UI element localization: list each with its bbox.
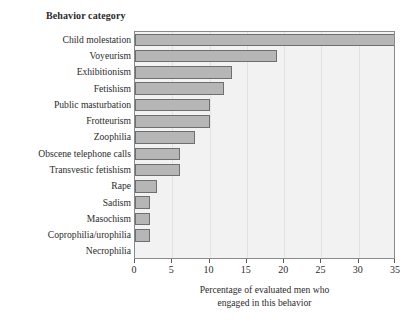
bar	[135, 229, 150, 242]
x-tick-mark	[209, 259, 210, 263]
bar-row	[135, 211, 394, 227]
x-tick-label: 5	[169, 264, 174, 276]
bar	[135, 148, 180, 161]
plot-area	[134, 31, 395, 259]
bar-row	[135, 65, 394, 81]
category-label: Zoophilia	[0, 131, 131, 142]
x-tick-label: 20	[278, 264, 288, 276]
x-tick-mark	[358, 259, 359, 263]
x-tick-label: 25	[315, 264, 325, 276]
category-label: Masochism	[0, 213, 131, 224]
bar-row	[135, 97, 394, 113]
bar	[135, 99, 210, 112]
x-tick-mark	[320, 259, 321, 263]
category-label: Frotteurism	[0, 115, 131, 126]
bar	[135, 50, 277, 63]
bar	[135, 131, 195, 144]
bar	[135, 213, 150, 226]
category-label: Exhibitionism	[0, 66, 131, 77]
bar	[135, 164, 180, 177]
bar	[135, 66, 232, 79]
category-label: Necrophilia	[0, 245, 131, 256]
category-axis-labels: Child molestationVoyeurismExhibitionismF…	[0, 31, 131, 259]
x-axis: 05101520253035	[134, 259, 395, 281]
bar-row	[135, 195, 394, 211]
x-tick-label: 0	[132, 264, 137, 276]
bar-row	[135, 179, 394, 195]
x-tick-mark	[394, 259, 395, 263]
x-tick-mark	[171, 259, 172, 263]
bar	[135, 115, 210, 128]
x-tick-mark	[134, 259, 135, 263]
bar-row	[135, 113, 394, 129]
bar-row	[135, 244, 394, 259]
bar-row	[135, 227, 394, 243]
x-tick-label: 15	[241, 264, 251, 276]
x-axis-title-line-1: Percentage of evaluated men who	[134, 284, 395, 297]
bar	[135, 180, 157, 193]
bar-row	[135, 81, 394, 97]
category-label: Public masturbation	[0, 99, 131, 110]
x-tick-label: 10	[204, 264, 214, 276]
x-axis-title-line-2: engaged in this behavior	[134, 297, 395, 310]
category-label: Voyeurism	[0, 50, 131, 61]
bar	[135, 34, 395, 47]
bar	[135, 82, 224, 95]
bar-row	[135, 130, 394, 146]
x-tick-label: 30	[353, 264, 363, 276]
bar-row	[135, 162, 394, 178]
x-tick-label: 35	[390, 264, 400, 276]
category-label: Child molestation	[0, 34, 131, 45]
bar-row	[135, 48, 394, 64]
bar-row	[135, 32, 394, 48]
x-tick-mark	[283, 259, 284, 263]
category-label: Obscene telephone calls	[0, 148, 131, 159]
category-column-title: Behavior category	[46, 10, 126, 21]
category-label: Sadism	[0, 197, 131, 208]
x-tick-mark	[246, 259, 247, 263]
category-label: Transvestic fetishism	[0, 164, 131, 175]
bar-row	[135, 146, 394, 162]
category-label: Coprophilia/urophilia	[0, 229, 131, 240]
category-label: Fetishism	[0, 83, 131, 94]
bar-chart-figure: Behavior category Child molestationVoyeu…	[0, 0, 418, 321]
bar	[135, 196, 150, 209]
category-label: Rape	[0, 180, 131, 191]
x-axis-title: Percentage of evaluated men who engaged …	[134, 284, 395, 309]
